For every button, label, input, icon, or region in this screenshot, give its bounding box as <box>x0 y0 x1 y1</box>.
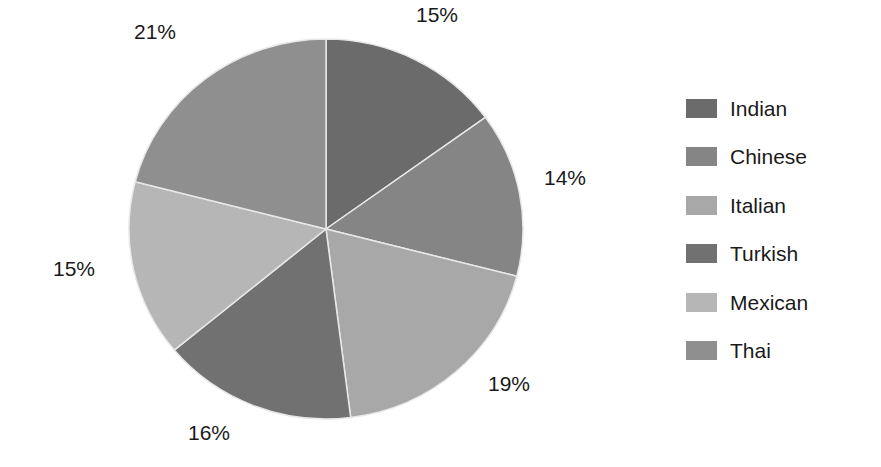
pct-label-mexican: 15% <box>53 258 95 279</box>
legend-label-italian: Italian <box>730 195 786 216</box>
legend-swatch-chinese <box>686 147 717 166</box>
pct-label-turkish: 16% <box>188 422 230 443</box>
legend-swatch-indian <box>686 99 717 118</box>
legend-item-turkish: Turkish <box>686 230 808 279</box>
pct-label-thai: 21% <box>134 21 176 42</box>
legend-item-thai: Thai <box>686 327 808 376</box>
legend-label-chinese: Chinese <box>730 146 807 167</box>
legend-label-indian: Indian <box>730 98 787 119</box>
legend-label-mexican: Mexican <box>730 292 808 313</box>
legend-swatch-mexican <box>686 293 717 312</box>
pct-label-chinese: 14% <box>544 167 586 188</box>
legend-swatch-thai <box>686 341 717 360</box>
legend-label-turkish: Turkish <box>730 243 798 264</box>
legend-label-thai: Thai <box>730 340 771 361</box>
pct-label-indian: 15% <box>416 4 458 25</box>
legend-swatch-italian <box>686 196 717 215</box>
legend-item-chinese: Chinese <box>686 133 808 182</box>
legend: Indian Chinese Italian Turkish Mexican T… <box>686 84 808 375</box>
pct-label-italian: 19% <box>488 373 530 394</box>
legend-item-indian: Indian <box>686 84 808 133</box>
legend-item-italian: Italian <box>686 181 808 230</box>
pie-chart: 15% 14% 19% 16% 15% 21% Indian Chinese I… <box>0 0 881 467</box>
legend-item-mexican: Mexican <box>686 278 808 327</box>
legend-swatch-turkish <box>686 244 717 263</box>
